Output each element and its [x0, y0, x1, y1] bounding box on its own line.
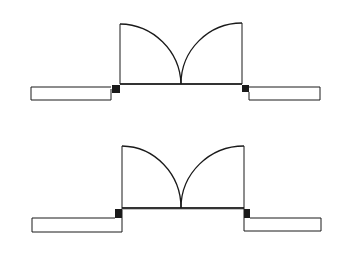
- right-jamb: [244, 209, 250, 218]
- right-jamb: [242, 85, 249, 92]
- door-symbols-diagram: [0, 0, 347, 256]
- threshold: [122, 207, 244, 209]
- left-jamb: [112, 85, 120, 93]
- left-jamb: [115, 209, 122, 218]
